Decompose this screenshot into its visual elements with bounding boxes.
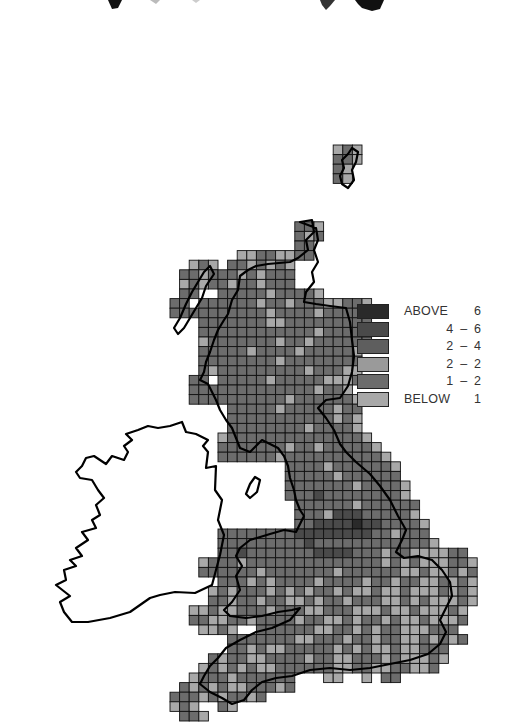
grid-cell [314,452,324,462]
grid-cell [285,289,295,299]
grid-cell [199,395,209,405]
grid-cell [372,529,382,539]
grid-cell [304,433,314,443]
grid-cell [304,395,314,405]
grid-cell [381,548,391,558]
grid-cell [247,289,257,299]
grid-cell [352,491,362,501]
grid-cell [410,577,420,587]
grid-cell [170,692,180,702]
grid-cell [410,558,420,568]
grid-cell [285,375,295,385]
grid-cell [362,596,372,606]
grid-cell [256,366,266,376]
grid-cell [285,395,295,405]
grid-cell [208,625,218,635]
grid-cell [400,606,410,616]
grid-cell [237,299,247,309]
grid-cell [276,567,286,577]
grid-cell [256,596,266,606]
grid-cell [324,452,334,462]
grid-cell [420,615,430,625]
grid-cell [381,673,391,683]
grid-cell [218,663,228,673]
grid-cell [324,337,334,347]
grid-cell [276,308,286,318]
grid-cell [391,625,401,635]
grid-cell [276,270,286,280]
grid-cell [247,279,257,289]
grid-cell [295,443,305,453]
grid-cell [285,596,295,606]
grid-cell [372,558,382,568]
grid-cell [420,577,430,587]
grid-cell [400,635,410,645]
grid-cell [180,289,190,299]
grid-cell [247,337,257,347]
grid-cell [228,347,238,357]
grid-cell [324,615,334,625]
grid-cell [352,500,362,510]
grid-cell [304,644,314,654]
grid-cell [295,625,305,635]
grid-cell [304,539,314,549]
grid-cell [285,635,295,645]
grid-cell [208,308,218,318]
grid-cell [295,241,305,251]
grid-cell [189,692,199,702]
grid-cell [448,558,458,568]
grid-cell [420,587,430,597]
grid-cell [218,625,228,635]
grid-cell [304,318,314,328]
grid-cell [276,356,286,366]
grid-cell [276,539,286,549]
grid-cell [400,510,410,520]
grid-cell [314,654,324,664]
grid-cell [304,625,314,635]
grid-cell [256,395,266,405]
grid-cell [352,548,362,558]
grid-cell [218,567,228,577]
grid-cell [208,356,218,366]
grid-cell [218,596,228,606]
grid-cell [304,337,314,347]
grid-cell [391,644,401,654]
grid-cell [372,635,382,645]
grid-cell [372,644,382,654]
grid-cell [324,673,334,683]
grid-cell [304,567,314,577]
grid-cell [333,385,343,395]
legend-item-1-2: 1 – 2 [357,373,487,391]
grid-cell [324,654,334,664]
grid-cell [324,635,334,645]
grid-cell [352,414,362,424]
grid-cell [266,539,276,549]
grid-cell [247,654,257,664]
grid-cell [362,519,372,529]
grid-cell [314,500,324,510]
grid-cell [352,587,362,597]
grid-cell [333,510,343,520]
grid-cell [276,587,286,597]
grid-cell [189,606,199,616]
grid-cell [343,577,353,587]
grid-cell [324,433,334,443]
grid-cell [295,308,305,318]
grid-cell [237,654,247,664]
grid-cell [420,635,430,645]
grid-cell [381,539,391,549]
grid-cell [333,587,343,597]
grid-cell [237,318,247,328]
grid-cell [458,596,468,606]
grid-cell [285,548,295,558]
grid-cell [314,308,324,318]
grid-cell [381,635,391,645]
grid-cell [362,577,372,587]
grid-cell [304,548,314,558]
grid-cell [218,587,228,597]
grid-cell [247,375,257,385]
grid-cell [343,548,353,558]
grid-cell [372,587,382,597]
grid-cell [314,529,324,539]
grid-cell [285,347,295,357]
